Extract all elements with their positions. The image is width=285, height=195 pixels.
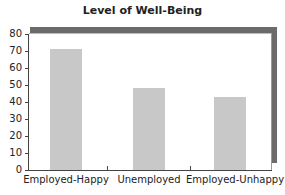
y-tick-mark [25,102,29,103]
bar-employed-happy [50,49,82,170]
y-tick-label: 40 [0,97,22,107]
x-label-unemployed: Unemployed [114,174,184,185]
y-tick-label: 20 [0,131,22,141]
y-tick-mark [25,153,29,154]
bar-unemployed [133,88,165,170]
y-tick-mark [25,51,29,52]
y-tick-label: 0 [0,165,22,175]
y-tick-label: 80 [0,29,22,39]
bar-employed-unhappy [214,97,246,170]
x-label-employed-happy: Employed-Happy [22,174,110,185]
x-axis-line [28,170,272,171]
y-tick-mark [25,34,29,35]
chart-title: Level of Well-Being [0,4,285,17]
y-tick-label: 70 [0,46,22,56]
y-tick-label: 10 [0,148,22,158]
y-tick-mark [25,119,29,120]
y-tick-mark [25,68,29,69]
y-tick-mark [25,170,29,171]
y-tick-mark [25,85,29,86]
x-category-separator [107,166,108,171]
y-tick-label: 30 [0,114,22,124]
y-tick-mark [25,136,29,137]
x-label-employed-unhappy: Employed-Unhappy [186,174,284,185]
y-tick-label: 60 [0,63,22,73]
x-category-separator [190,166,191,171]
y-tick-label: 50 [0,80,22,90]
